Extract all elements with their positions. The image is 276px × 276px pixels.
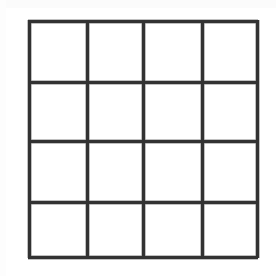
grid-cell[interactable]: [29, 141, 87, 202]
grid-figure: [0, 0, 276, 276]
grid-svg: [0, 0, 276, 276]
grid-cell[interactable]: [202, 21, 257, 82]
grid-cell[interactable]: [87, 202, 143, 257]
grid-cell[interactable]: [29, 202, 87, 257]
grid-cell[interactable]: [143, 202, 202, 257]
grid-cell[interactable]: [202, 82, 257, 141]
grid-cell[interactable]: [29, 21, 87, 82]
grid-cell[interactable]: [87, 141, 143, 202]
grid-cell[interactable]: [143, 21, 202, 82]
figure-canvas: [0, 0, 276, 276]
grid-cell[interactable]: [143, 141, 202, 202]
grid-cell[interactable]: [143, 82, 202, 141]
grid-cell[interactable]: [202, 202, 257, 257]
grid-cell[interactable]: [202, 141, 257, 202]
grid-cell[interactable]: [87, 82, 143, 141]
grid-cell[interactable]: [29, 82, 87, 141]
grid-cell[interactable]: [87, 21, 143, 82]
